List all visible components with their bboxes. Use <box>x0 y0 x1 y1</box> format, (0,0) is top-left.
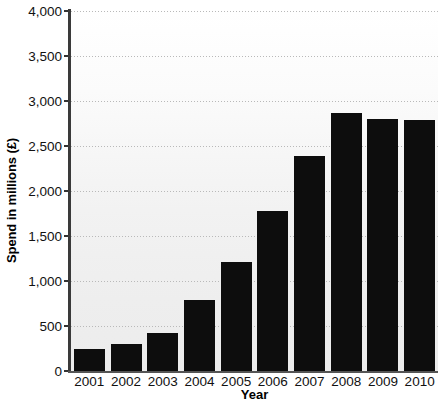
x-axis-title: Year <box>71 387 438 401</box>
bar-2008 <box>331 113 362 371</box>
x-axis-line <box>68 371 438 373</box>
y-axis-line <box>68 9 71 373</box>
y-tick-label-1500: 1,500 <box>12 229 62 244</box>
bar-2005 <box>221 262 252 371</box>
y-tick-label-1000: 1,000 <box>12 274 62 289</box>
plot-area <box>71 11 438 371</box>
y-tick-label-3500: 3,500 <box>12 49 62 64</box>
y-tick-label-500: 500 <box>12 319 62 334</box>
bar-2003 <box>147 333 178 371</box>
y-tick-label-4000: 4,000 <box>12 4 62 19</box>
bar-2001 <box>74 349 105 372</box>
bar-2002 <box>111 344 142 371</box>
bar-series <box>71 11 438 371</box>
bar-2006 <box>257 211 288 371</box>
bar-2009 <box>367 119 398 371</box>
bar-chart: Spend in millions (£) 0 500 1,000 1,500 … <box>0 0 438 401</box>
y-tick-label-0: 0 <box>12 364 62 379</box>
y-tick-label-2500: 2,500 <box>12 139 62 154</box>
y-axis-ticks: 0 500 1,000 1,500 2,000 2,500 3,000 3,50… <box>12 0 62 401</box>
bar-2004 <box>184 300 215 371</box>
y-tick-label-2000: 2,000 <box>12 184 62 199</box>
y-tick-label-3000: 3,000 <box>12 94 62 109</box>
bar-2010 <box>404 120 435 371</box>
bar-2007 <box>294 156 325 371</box>
